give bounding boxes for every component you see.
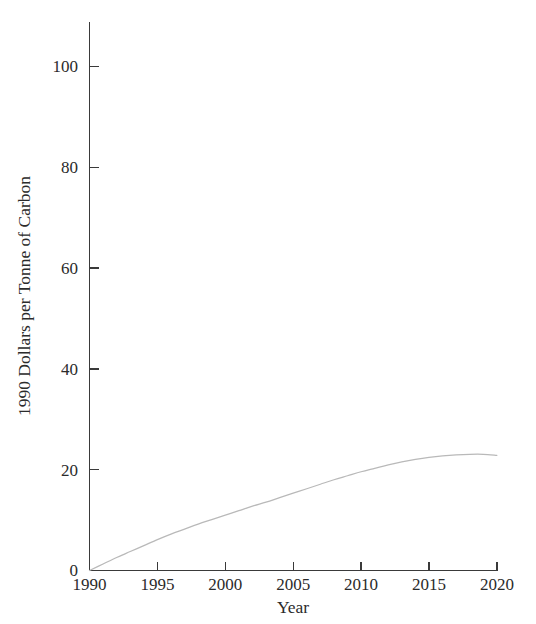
y-tick-label-40: 40	[61, 360, 78, 379]
x-tick-label-2000: 2000	[208, 575, 242, 594]
x-tick-label-2010: 2010	[344, 575, 378, 594]
y-tick-label-80: 80	[61, 158, 78, 177]
x-axis-tick-labels: 1990 1995 2000 2005 2010 2015 2020	[73, 575, 514, 594]
y-axis-title: 1990 Dollars per Tonne of Carbon	[14, 176, 34, 416]
x-tick-label-2005: 2005	[276, 575, 310, 594]
x-axis-title: Year	[277, 597, 309, 617]
x-axis-ticks	[90, 562, 497, 571]
x-tick-label-1990: 1990	[73, 575, 107, 594]
x-tick-label-1995: 1995	[140, 575, 174, 594]
data-series-carbon-price	[90, 454, 497, 570]
y-axis-tick-labels: 0 20 40 60 80 100	[53, 57, 79, 580]
y-tick-label-60: 60	[61, 259, 78, 278]
line-chart: 1990 Dollars per Tonne of Carbon Year 0 …	[0, 0, 536, 624]
x-tick-label-2020: 2020	[480, 575, 514, 594]
y-tick-label-100: 100	[53, 57, 79, 76]
y-tick-label-20: 20	[61, 461, 78, 480]
x-tick-label-2015: 2015	[412, 575, 446, 594]
y-axis-ticks	[90, 67, 99, 571]
chart-figure: 1990 Dollars per Tonne of Carbon Year 0 …	[0, 0, 536, 624]
axis-spines	[90, 22, 498, 571]
